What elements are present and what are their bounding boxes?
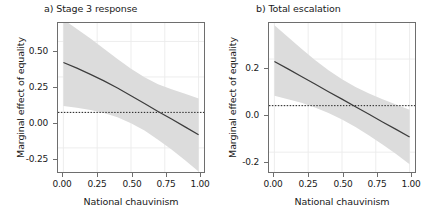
panel-a-xtick-label-0: 0.00 (42, 180, 82, 189)
chart-panel-a: a) Stage 3 response Marginal effect of e… (0, 0, 212, 221)
panel-b-title: b) Total escalation (256, 3, 341, 15)
panel-b-x-axis-label: National chauvinism (268, 196, 416, 207)
panel-a-ytick-label-2: 0.00 (10, 119, 48, 128)
panel-a-xtick-mark-4 (200, 173, 201, 177)
panel-b-xtick-label-4: 1.00 (391, 180, 424, 189)
panel-b-ytick-label-1: 0.0 (221, 111, 259, 120)
figure-root: a) Stage 3 response Marginal effect of e… (0, 0, 424, 221)
panel-b-xtick-mark-4 (411, 173, 412, 177)
chart-panel-b: b) Total escalation Marginal effect of e… (212, 0, 424, 221)
panel-a-y-axis-label: Marginal effect of equality (14, 22, 28, 173)
panel-a-xtick-label-1: 0.25 (77, 180, 117, 189)
panel-a-xtick-mark-1 (97, 173, 98, 177)
panel-a-ytick-label-3: -0.25 (10, 155, 48, 164)
panel-b-ytick-label-2: -0.2 (221, 158, 259, 167)
panel-b-plot-area (268, 22, 416, 173)
panel-a-xtick-mark-0 (62, 173, 63, 177)
panel-a-xtick-mark-3 (166, 173, 167, 177)
panel-a-plot-area (57, 22, 205, 173)
panel-b-ytick-label-0: 0.2 (221, 64, 259, 73)
panel-b-xtick-label-0: 0.00 (253, 180, 293, 189)
panel-a-xtick-mark-2 (132, 173, 133, 177)
panel-a-ytick-label-1: 0.25 (10, 83, 48, 92)
panel-a-title: a) Stage 3 response (44, 3, 137, 15)
panel-b-xtick-mark-3 (377, 173, 378, 177)
panel-b-xtick-mark-2 (343, 173, 344, 177)
panel-b-xtick-label-1: 0.25 (288, 180, 328, 189)
panel-a-x-axis-label: National chauvinism (57, 196, 205, 207)
panel-b-xtick-mark-0 (273, 173, 274, 177)
panel-b-plot-svg (269, 23, 415, 172)
panel-a-plot-svg (58, 23, 204, 172)
panel-b-y-axis-label: Marginal effect of equality (226, 22, 240, 173)
panel-a-ytick-label-0: 0.50 (10, 47, 48, 56)
panel-b-xtick-mark-1 (308, 173, 309, 177)
